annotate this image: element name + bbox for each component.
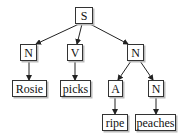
node-n-subject: N	[20, 44, 37, 61]
node-rosie: Rosie	[12, 80, 47, 97]
node-picks: picks	[60, 80, 91, 97]
edge-n2-n3	[140, 61, 153, 80]
node-n-head: N	[148, 80, 164, 97]
edge-s-n1	[36, 24, 79, 44]
node-s: S	[75, 7, 93, 24]
node-a: A	[108, 80, 123, 97]
edge-n2-a	[118, 61, 131, 80]
node-n-object: N	[127, 44, 144, 61]
node-v: V	[67, 44, 83, 61]
node-ripe: ripe	[102, 114, 128, 131]
edge-s-v	[77, 24, 82, 44]
node-peaches: peaches	[135, 114, 176, 131]
edge-s-n2	[90, 24, 128, 44]
